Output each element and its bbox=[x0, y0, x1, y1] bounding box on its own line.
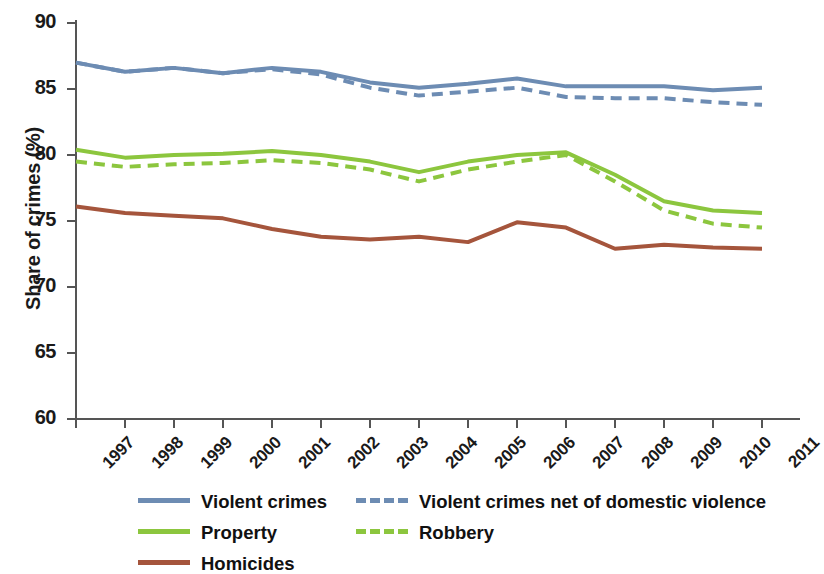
y-tick-marks bbox=[67, 23, 76, 419]
chart-legend: Violent crimesViolent crimes net of dome… bbox=[138, 488, 798, 574]
legend-row: PropertyRobbery bbox=[138, 519, 798, 550]
legend-swatch-solid-icon bbox=[138, 560, 190, 565]
legend-item[interactable]: Robbery bbox=[356, 519, 494, 546]
axes bbox=[67, 20, 800, 428]
legend-swatch-dashed-icon bbox=[356, 498, 408, 503]
legend-row: Homicides bbox=[138, 550, 798, 574]
data-series-group bbox=[76, 63, 762, 249]
legend-item[interactable]: Violent crimes bbox=[138, 488, 356, 515]
legend-swatch-dashed-icon bbox=[356, 529, 408, 534]
x-tick-marks bbox=[76, 419, 762, 428]
legend-swatch-solid-icon bbox=[138, 498, 190, 503]
legend-item[interactable]: Property bbox=[138, 519, 356, 546]
legend-row: Violent crimesViolent crimes net of dome… bbox=[138, 488, 798, 519]
legend-label: Violent crimes net of domestic violence bbox=[419, 489, 766, 515]
series-line bbox=[76, 63, 762, 91]
legend-label: Homicides bbox=[201, 551, 295, 574]
legend-label: Robbery bbox=[419, 520, 494, 546]
legend-item[interactable]: Violent crimes net of domestic violence bbox=[356, 488, 766, 515]
series-line bbox=[76, 206, 762, 248]
legend-label: Property bbox=[201, 520, 277, 546]
legend-item[interactable]: Homicides bbox=[138, 550, 356, 574]
legend-label: Violent crimes bbox=[201, 489, 327, 515]
legend-swatch-solid-icon bbox=[138, 529, 190, 534]
